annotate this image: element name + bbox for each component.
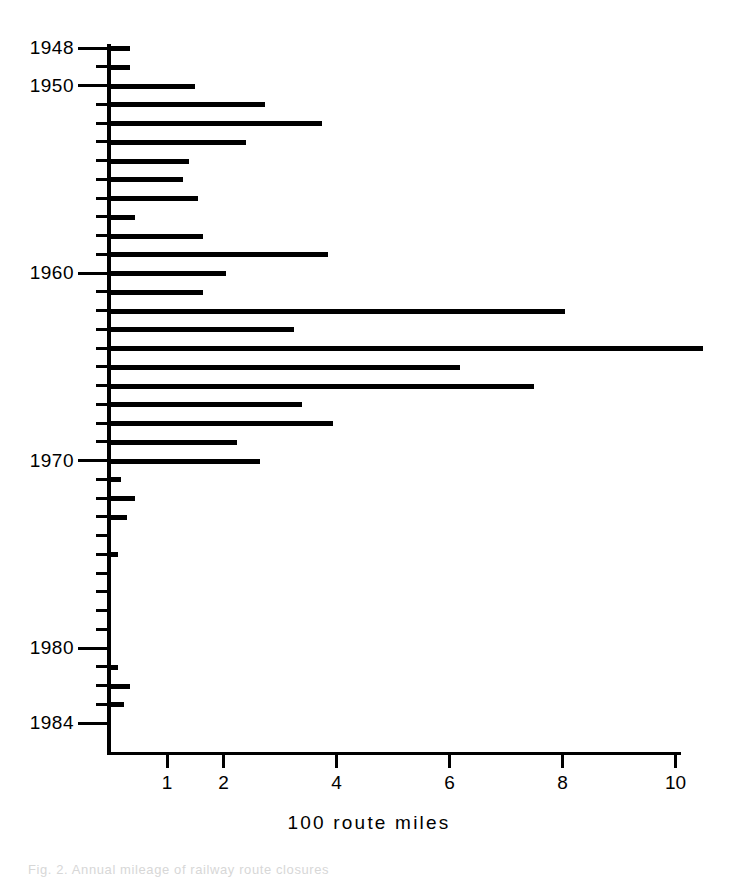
x-tick-1 <box>166 755 169 768</box>
x-tick-4 <box>335 755 338 768</box>
chart-plot-area: 194819501960197019801984 1246810 100 rou… <box>0 0 738 884</box>
x-axis-ticks: 1246810 <box>0 0 738 884</box>
x-tick-10 <box>674 755 677 768</box>
figure-caption: Fig. 2. Annual mileage of railway route … <box>28 862 448 877</box>
x-axis-label: 100 route miles <box>0 812 738 834</box>
x-tick-label-2: 2 <box>204 772 244 793</box>
x-tick-6 <box>448 755 451 768</box>
x-tick-label-6: 6 <box>430 772 470 793</box>
x-tick-label-4: 4 <box>317 772 357 793</box>
x-tick-label-8: 8 <box>543 772 583 793</box>
x-tick-2 <box>222 755 225 768</box>
x-tick-8 <box>561 755 564 768</box>
x-tick-label-10: 10 <box>656 772 696 793</box>
x-tick-label-1: 1 <box>147 772 187 793</box>
figure-container: 194819501960197019801984 1246810 100 rou… <box>0 0 738 884</box>
